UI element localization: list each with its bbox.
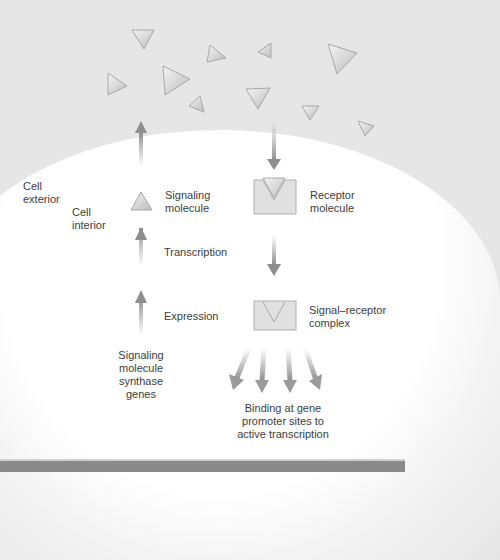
arrow-up-icon [135, 121, 147, 133]
cell-interior-label: Cell interior [72, 206, 106, 232]
signaling-molecule-label: Signaling molecule [165, 189, 210, 215]
synthase-genes-label: Signaling molecule synthase genes [104, 349, 178, 401]
expression-label: Expression [164, 310, 218, 323]
signal-receptor-complex-label: Signal–receptor complex [309, 304, 386, 330]
bottom-bar [0, 459, 405, 472]
receptor-molecule-icon [254, 178, 296, 214]
binding-arrows [229, 348, 322, 393]
receptor-molecule-label: Receptor molecule [310, 189, 355, 215]
binding-label: Binding at gene promoter sites to active… [218, 402, 348, 441]
extracellular-signaling-molecules [108, 30, 374, 136]
transcription-label: Transcription [164, 246, 227, 259]
signal-receptor-complex-icon [254, 301, 296, 330]
signaling-molecule-icon [131, 192, 152, 210]
cell-exterior-label: Cell exterior [23, 180, 60, 206]
arrow-down-icon [267, 159, 281, 170]
